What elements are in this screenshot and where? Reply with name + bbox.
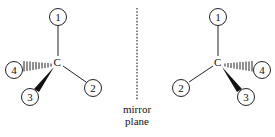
svg-text:3: 3 — [27, 91, 33, 103]
svg-text:2: 2 — [90, 82, 96, 94]
substituent-1-right: 1 — [210, 9, 227, 26]
bond-c-2-right — [189, 66, 213, 82]
svg-text:4: 4 — [11, 64, 17, 76]
substituent-3-right: 3 — [238, 89, 255, 106]
svg-text:1: 1 — [55, 11, 61, 23]
mirror-plane: mirror plane — [123, 8, 151, 127]
hashed-bond-c-4-right — [225, 61, 252, 72]
enantiomer-diagram: C 1 2 3 4 mirror plane — [0, 0, 275, 137]
center-atom-right: C — [214, 56, 221, 68]
substituent-3-left: 3 — [22, 89, 39, 106]
substituent-1-left: 1 — [50, 9, 67, 26]
mirror-caption-line1: mirror — [123, 103, 151, 115]
svg-text:2: 2 — [178, 82, 184, 94]
substituent-4-right: 4 — [254, 62, 271, 79]
center-atom-left: C — [54, 56, 61, 68]
wedge-bond-c-3-left — [34, 67, 54, 92]
substituent-2-right: 2 — [173, 80, 190, 97]
substituent-2-left: 2 — [85, 80, 102, 97]
right-molecule: C 1 2 3 4 — [173, 9, 271, 106]
substituent-4-left: 4 — [6, 62, 23, 79]
svg-text:1: 1 — [215, 11, 221, 23]
hashed-bond-c-4-left — [24, 61, 51, 72]
svg-text:4: 4 — [259, 64, 265, 76]
wedge-bond-c-3-right — [222, 67, 242, 92]
left-molecule: C 1 2 3 4 — [6, 9, 102, 106]
bond-c-2-left — [63, 66, 86, 82]
svg-text:3: 3 — [243, 91, 249, 103]
mirror-caption-line2: plane — [125, 115, 149, 127]
